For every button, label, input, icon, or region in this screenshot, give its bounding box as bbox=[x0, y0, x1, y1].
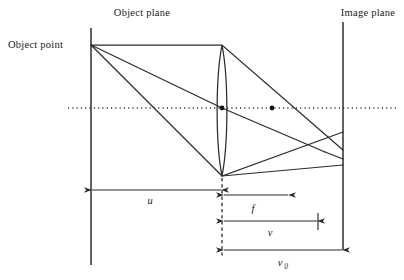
ray-chief-through-center bbox=[91, 45, 325, 152]
dimension-v0: v 0 bbox=[224, 250, 342, 271]
object-point-label: Object point bbox=[8, 39, 63, 50]
ray-converge-lower-extend bbox=[222, 165, 343, 176]
optics-diagram-root: Object plane Object point Image plane u … bbox=[0, 0, 404, 280]
dimension-v0-label: v bbox=[278, 257, 283, 268]
dimension-f: f bbox=[224, 195, 288, 214]
lens-center-dot bbox=[220, 106, 225, 111]
object-plane-label: Object plane bbox=[114, 7, 170, 18]
dimension-v-label: v bbox=[268, 227, 273, 238]
focal-point-dot bbox=[270, 106, 275, 111]
dimension-f-label: f bbox=[252, 203, 257, 214]
dimension-u: u bbox=[92, 190, 221, 206]
lens-biconvex-outline bbox=[217, 45, 227, 176]
dimension-v0-subscript: 0 bbox=[284, 262, 288, 271]
image-plane-label: Image plane bbox=[341, 7, 395, 18]
ray-axis-to-image-plane bbox=[325, 152, 343, 159]
dimension-u-label: u bbox=[147, 195, 152, 206]
dimension-v: v bbox=[224, 213, 318, 238]
optics-ray-diagram: Object plane Object point Image plane u … bbox=[0, 0, 404, 280]
